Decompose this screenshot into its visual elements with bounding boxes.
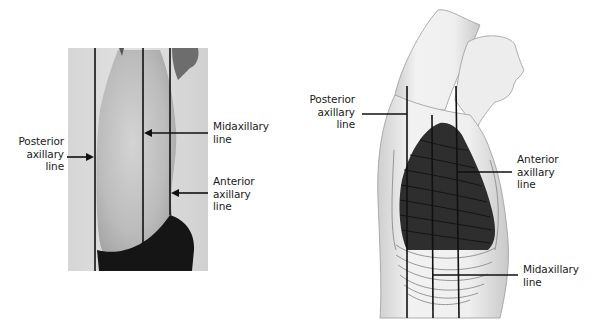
label-line: Midaxillary bbox=[523, 263, 579, 276]
label-line: line bbox=[517, 178, 559, 191]
label-line: Anterior bbox=[213, 175, 255, 188]
label-line: axillary bbox=[517, 166, 559, 179]
illu-anterior-label: Anterior axillary line bbox=[517, 153, 559, 191]
figure-canvas bbox=[0, 0, 595, 332]
label-line: axillary bbox=[295, 106, 355, 119]
illu-posterior-label: Posterior axillary line bbox=[295, 93, 355, 131]
label-line: line bbox=[4, 160, 64, 173]
photo-posterior-label: Posterior axillary line bbox=[4, 135, 64, 173]
label-line: Anterior bbox=[517, 153, 559, 166]
label-line: Posterior bbox=[4, 135, 64, 148]
illustration-panel bbox=[362, 10, 524, 318]
illu-midaxillary-label: Midaxillary line bbox=[523, 263, 579, 288]
label-line: line bbox=[213, 133, 269, 146]
label-line: Posterior bbox=[295, 93, 355, 106]
label-line: line bbox=[523, 276, 579, 289]
illu-midaxillary-line bbox=[432, 115, 433, 318]
label-line: axillary bbox=[4, 148, 64, 161]
label-line: line bbox=[213, 200, 255, 213]
photo-anterior-label: Anterior axillary line bbox=[213, 175, 255, 213]
photo-midaxillary-label: Midaxillary line bbox=[213, 120, 269, 145]
label-line: axillary bbox=[213, 188, 255, 201]
label-line: line bbox=[295, 118, 355, 131]
photo-panel bbox=[67, 48, 208, 271]
label-line: Midaxillary bbox=[213, 120, 269, 133]
